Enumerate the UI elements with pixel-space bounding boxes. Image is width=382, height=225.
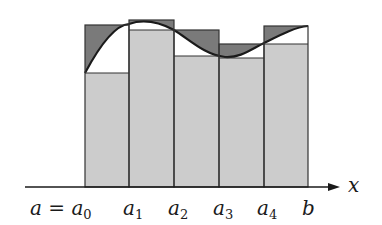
lower-rect-1 — [129, 30, 174, 187]
x-axis-arrowhead — [328, 183, 340, 191]
lower-rect-0 — [85, 73, 129, 187]
partition-label-3: a3 — [213, 196, 233, 222]
partition-label-4: a4 — [257, 196, 277, 222]
partition-label-5: b — [302, 196, 315, 220]
partition-label-0: a = a0 — [30, 196, 92, 222]
partition-label-1: a1 — [123, 196, 143, 222]
lower-rect-3 — [219, 58, 264, 187]
riemann-sum-diagram: x a = a0a1a2a3a4b — [0, 0, 382, 225]
lower-rect-4 — [264, 44, 308, 187]
x-axis-label: x — [348, 173, 359, 197]
lower-rect-2 — [174, 56, 219, 187]
partition-label-2: a2 — [168, 196, 188, 222]
partition-labels: a = a0a1a2a3a4b — [30, 196, 315, 222]
